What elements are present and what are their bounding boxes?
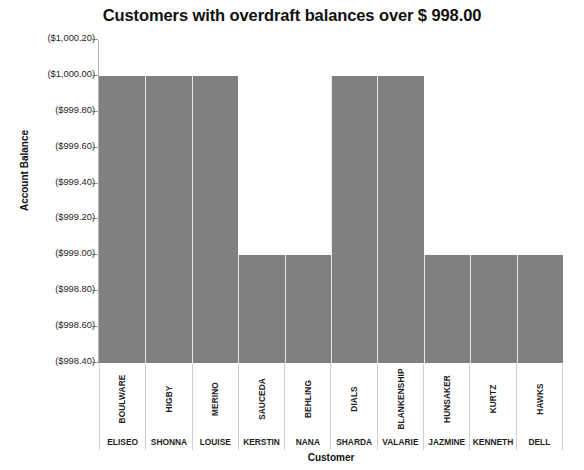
category-first-name: DELL [517,437,562,447]
category-label-cell: DIALSSHARDA [330,364,376,450]
category-label-cell: HIGBYSHONNA [145,364,191,450]
category-first-name: SHONNA [146,437,191,447]
category-label-cell: BEHLINGNANA [284,364,330,450]
y-axis-tick-label: ($999.40) [55,177,95,187]
category-first-name: LOUISE [193,437,238,447]
category-last-name: KURTZ [470,366,515,428]
category-last-name: BEHLING [285,366,330,428]
category-first-name: KENNETH [470,437,515,447]
category-first-name: SHARDA [331,437,376,447]
y-axis-tick-label: ($998.80) [55,284,95,294]
category-label-cell: BOULWAREELISEO [99,364,145,450]
category-first-name: VALARIE [378,437,423,447]
category-first-name: JAZMINE [424,437,469,447]
category-label-cell: HUNSAKERJAZMINE [423,364,469,450]
category-last-name: DIALS [331,366,376,428]
category-first-name: ELISEO [100,437,145,447]
category-last-name: MERINO [193,366,238,428]
y-axis-tick-label: ($999.00) [55,248,95,258]
bar[interactable] [424,255,470,363]
chart-title: Customers with overdraft balances over $… [0,6,584,25]
y-axis-tick-label: ($998.60) [55,320,95,330]
bar[interactable] [470,255,516,363]
category-label-cell: HAWKSDELL [516,364,563,450]
bar[interactable] [285,255,331,363]
bar[interactable] [517,255,563,363]
bar[interactable] [238,255,284,363]
category-label-cell: MERINOLOUISE [192,364,238,450]
category-first-name: NANA [285,437,330,447]
category-label-cell: SAUCEDAKERSTIN [238,364,284,450]
x-axis-title: Customer [99,452,563,463]
y-axis-tick-label: ($999.60) [55,141,95,151]
category-last-name: BLANKENSHIP [378,366,423,428]
category-label-grid: BOULWAREELISEOHIGBYSHONNAMERINOLOUISESAU… [99,364,563,450]
category-first-name: KERSTIN [239,437,284,447]
y-axis-tick-label: ($999.80) [55,105,95,115]
category-last-name: SAUCEDA [239,366,284,428]
category-label-cell: KURTZKENNETH [469,364,515,450]
y-axis-tick-label: ($999.20) [55,212,95,222]
bar[interactable] [99,76,145,363]
category-last-name: BOULWARE [100,366,145,428]
bars-layer [99,40,563,363]
category-last-name: HAWKS [517,366,562,428]
y-axis-tick-label: ($1,000.20) [47,33,95,43]
category-last-name: HUNSAKER [424,366,469,428]
bar[interactable] [331,76,377,363]
y-axis-title: Account Balance [19,101,30,241]
bar[interactable] [192,76,238,363]
bar[interactable] [377,76,423,363]
y-axis-tick-label: ($998.40) [55,356,95,366]
bar[interactable] [145,76,191,363]
category-label-cell: BLANKENSHIPVALARIE [377,364,423,450]
bar-chart: Customers with overdraft balances over $… [0,0,584,470]
category-last-name: HIGBY [146,366,191,428]
y-axis-tick-label: ($1,000.00) [47,69,95,79]
